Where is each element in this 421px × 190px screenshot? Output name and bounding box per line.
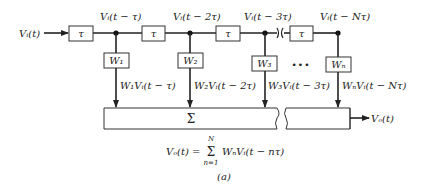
delay-box-2: τ xyxy=(142,26,165,41)
svg-text:τ: τ xyxy=(78,28,84,39)
svg-text:N: N xyxy=(207,135,215,143)
weight-box-1: W₁ xyxy=(104,53,129,68)
tap-label-2: Vᵢ(t − 2τ) xyxy=(173,11,221,22)
delay-box-n: τ xyxy=(290,26,313,41)
tapped-delay-line-diagram: Vᵢ(t) τ τ τ τ Vᵢ(t − τ) Vᵢ(t − 2τ) Vᵢ(t … xyxy=(0,0,421,190)
tap-label-1: Vᵢ(t − τ) xyxy=(100,11,141,22)
weighted-output-1: W₁Vᵢ(t − τ) xyxy=(120,80,176,91)
summer-block: Σ xyxy=(104,108,350,129)
svg-text:W₃: W₃ xyxy=(257,58,271,69)
delay-box-1: τ xyxy=(69,26,93,41)
delay-box-3: τ xyxy=(216,26,240,41)
equation: Vₒ(t) = N Σ n=1 WₙVᵢ(t − nτ) xyxy=(166,135,284,167)
tap-label-n: Vᵢ(t − Nτ) xyxy=(320,11,370,22)
svg-text:Vₒ(t) =: Vₒ(t) = xyxy=(166,146,200,157)
weight-box-2: W₂ xyxy=(178,53,203,68)
weight-box-3: W₃ xyxy=(252,56,277,71)
weighted-output-2: W₂Vᵢ(t − 2τ) xyxy=(194,80,256,91)
break-mark xyxy=(277,28,279,38)
sigma-symbol: Σ xyxy=(187,112,195,126)
svg-text:W₁: W₁ xyxy=(109,55,123,66)
svg-text:τ: τ xyxy=(225,28,231,39)
svg-text:W₂: W₂ xyxy=(183,55,197,66)
weighted-output-3: W₃Vᵢ(t − 3τ) xyxy=(268,80,330,91)
weighted-output-n: WₙVᵢ(t − Nτ) xyxy=(342,80,407,91)
svg-text:WₙVᵢ(t − nτ): WₙVᵢ(t − nτ) xyxy=(222,146,284,157)
svg-text:Σ: Σ xyxy=(207,145,215,159)
ellipsis: ••• xyxy=(292,60,311,70)
svg-text:τ: τ xyxy=(299,28,305,39)
input-label: Vᵢ(t) xyxy=(19,28,40,39)
output-label: Vₒ(t) xyxy=(371,113,394,124)
svg-text:Wₙ: Wₙ xyxy=(331,59,345,70)
tap-label-3: Vᵢ(t − 3τ) xyxy=(244,11,292,22)
figure-caption: (a) xyxy=(217,171,231,182)
svg-text:n=1: n=1 xyxy=(204,159,219,167)
svg-text:τ: τ xyxy=(151,28,157,39)
weight-box-n: Wₙ xyxy=(326,57,351,72)
